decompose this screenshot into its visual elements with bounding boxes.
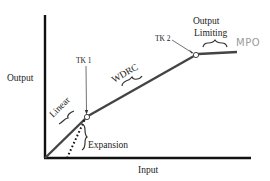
y-axis-label: Output bbox=[7, 73, 34, 83]
tk1-pointer bbox=[86, 66, 87, 112]
expansion-label: Expansion bbox=[88, 140, 128, 150]
io-curve bbox=[45, 52, 237, 158]
expansion-brace-icon bbox=[82, 124, 87, 150]
output-limiting-label-line1: Output bbox=[193, 16, 220, 26]
linear-brace-icon bbox=[59, 111, 74, 124]
wdrc-segment bbox=[88, 56, 194, 116]
tk2-pointer bbox=[172, 40, 191, 52]
limiting-segment bbox=[198, 52, 237, 54]
linear-segment bbox=[45, 118, 86, 158]
mpo-annotation: MPO bbox=[236, 37, 260, 48]
x-axis-label: Input bbox=[138, 165, 158, 175]
tk1-label: TK 1 bbox=[76, 56, 92, 65]
io-function-diagram: Output Input TK 1 TK 2 Linear WDRC Outpu… bbox=[0, 0, 270, 181]
linear-label: Linear bbox=[47, 94, 72, 119]
tk2-label: TK 2 bbox=[155, 34, 171, 43]
kneepoint-pointers bbox=[85, 40, 194, 115]
expansion-segment bbox=[67, 119, 85, 158]
tk1-kneepoint bbox=[84, 114, 89, 119]
limiting-brace-icon bbox=[203, 40, 227, 47]
tk2-kneepoint bbox=[193, 52, 198, 57]
tk1-arrowhead-icon bbox=[85, 110, 88, 115]
output-limiting-label-line2: Limiting bbox=[194, 28, 228, 38]
